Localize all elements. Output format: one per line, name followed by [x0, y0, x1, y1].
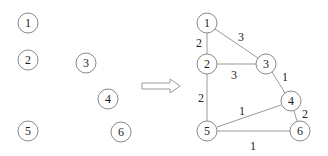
left-node-2: 2	[18, 50, 38, 70]
node-label: 3	[83, 56, 89, 70]
weight-2-3: 3	[231, 68, 237, 82]
left-node-1: 1	[18, 13, 38, 33]
node-label: 6	[297, 124, 303, 138]
node-label: 3	[263, 57, 269, 71]
right-graph-nodes: 1 2 3 4 5 6	[197, 13, 310, 141]
weight-4-5: 1	[239, 104, 245, 118]
node-label: 4	[105, 92, 111, 106]
node-label: 5	[204, 124, 210, 138]
transform-arrow-icon	[142, 79, 180, 93]
right-node-3: 3	[256, 54, 276, 74]
edge-4-5	[217, 105, 281, 127]
left-node-4: 4	[98, 89, 118, 109]
weight-1-2: 2	[196, 36, 202, 50]
node-label: 1	[204, 16, 210, 30]
right-node-1: 1	[197, 13, 217, 33]
right-node-6: 6	[290, 121, 310, 141]
node-label: 2	[25, 53, 31, 67]
weight-1-3: 3	[238, 30, 244, 44]
node-label: 1	[25, 16, 31, 30]
edge-1-3	[215, 29, 258, 58]
left-node-6: 6	[111, 122, 131, 142]
node-label: 2	[204, 57, 210, 71]
right-node-4: 4	[281, 91, 301, 111]
node-label: 4	[288, 94, 294, 108]
left-graph: 1 2 3 4 5 6	[18, 13, 131, 142]
graph-diagram: 1 2 3 4 5 6	[0, 0, 328, 156]
weight-4-6: 2	[302, 107, 308, 121]
node-label: 5	[25, 124, 31, 138]
weight-2-5: 2	[198, 91, 204, 105]
right-node-5: 5	[197, 121, 217, 141]
right-node-2: 2	[197, 54, 217, 74]
left-node-5: 5	[18, 121, 38, 141]
edge-4-6	[294, 111, 297, 121]
left-node-3: 3	[76, 53, 96, 73]
weight-3-4: 1	[282, 70, 288, 84]
node-label: 6	[118, 125, 124, 139]
weight-5-6: 1	[250, 139, 256, 153]
